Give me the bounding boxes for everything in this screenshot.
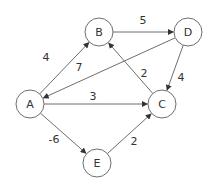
edge-a-to-c: 3	[44, 90, 148, 105]
node-label: D	[184, 26, 192, 39]
edge-c-to-b: 2	[109, 43, 153, 94]
arrow-icon	[167, 45, 183, 90]
edge-d-to-c: 4	[167, 45, 185, 90]
node-d: D	[174, 18, 202, 46]
node-label: E	[94, 157, 101, 170]
edge-weight-label: 3	[90, 90, 97, 103]
node-label: B	[95, 26, 103, 39]
arrow-icon	[41, 113, 87, 153]
edge-b-to-d: 5	[113, 14, 174, 33]
edge-d-to-a: 7	[43, 38, 175, 98]
edge-e-to-c: 2	[107, 114, 151, 154]
node-c: C	[148, 90, 176, 118]
arrow-icon	[107, 114, 151, 154]
edge-weight-label: 4	[43, 51, 50, 64]
node-a: A	[16, 90, 44, 118]
edge-weight-label: -6	[49, 133, 60, 146]
node-label: C	[158, 98, 166, 111]
edge-weight-label: 5	[140, 14, 147, 27]
edge-weight-label: 7	[76, 61, 83, 74]
node-e: E	[83, 149, 111, 177]
edge-weight-label: 2	[131, 135, 138, 148]
arrow-icon	[43, 38, 175, 98]
graph-diagram: 457243-62 ABCDE	[0, 0, 218, 193]
edge-weight-label: 2	[141, 67, 148, 80]
edge-weight-label: 4	[178, 71, 185, 84]
node-b: B	[85, 18, 113, 46]
edge-a-to-e: -6	[41, 113, 87, 153]
node-label: A	[26, 98, 34, 111]
